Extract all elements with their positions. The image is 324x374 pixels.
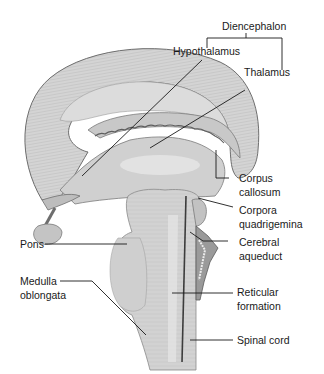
label-spinal-cord: Spinal cord: [237, 334, 290, 346]
label-hypothalamus: Hypothalamus: [173, 45, 240, 57]
label-medulla-2: oblongata: [20, 289, 66, 301]
label-thalamus: Thalamus: [244, 66, 290, 78]
label-corpus-callosum-2: callosum: [239, 186, 280, 198]
label-corpus-callosum-1: Corpus: [239, 172, 273, 184]
label-pons: Pons: [20, 238, 44, 250]
label-medulla-1: Medulla: [20, 275, 57, 287]
label-reticular-formation-2: formation: [237, 300, 281, 312]
label-cerebral-aqueduct-2: aqueduct: [239, 250, 282, 262]
label-corpora-quadrigemina-2: quadrigemina: [239, 218, 303, 230]
label-reticular-formation-1: Reticular: [237, 286, 278, 298]
label-corpora-quadrigemina-1: Corpora: [239, 204, 277, 216]
label-cerebral-aqueduct-1: Cerebral: [239, 236, 279, 248]
label-diencephalon: Diencephalon: [222, 20, 286, 32]
fourth-ventricle: [196, 226, 218, 300]
